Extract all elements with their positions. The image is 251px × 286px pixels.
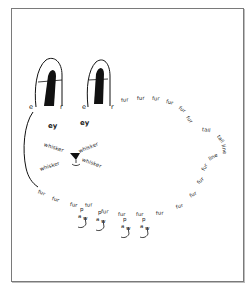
paw-strokes xyxy=(0,0,251,286)
